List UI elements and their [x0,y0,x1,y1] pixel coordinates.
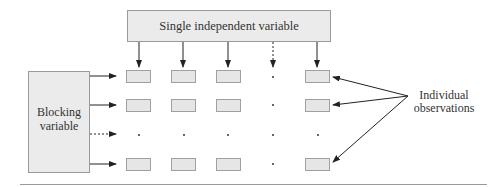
observation-pointer-arrow [333,96,408,162]
observation-pointer-arrow [333,96,408,105]
arrows-layer [0,0,503,187]
observation-pointer-arrow [333,77,408,96]
bottom-rule [20,184,487,185]
